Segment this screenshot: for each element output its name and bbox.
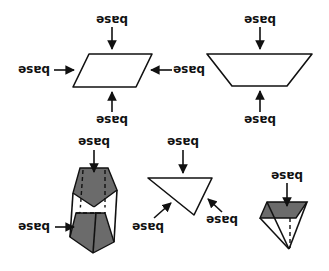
- pyramid-base: [260, 202, 307, 218]
- triangle-label-top: base: [167, 135, 199, 149]
- arrow-icon: [154, 203, 171, 218]
- trapezoid: [207, 54, 312, 86]
- parallelogram-label-right: base: [173, 63, 205, 77]
- arrow-icon: [208, 199, 222, 212]
- prism-top-base: [73, 168, 117, 207]
- triangle-label-right: base: [206, 213, 238, 227]
- parallelogram-label-bottom: base: [96, 113, 128, 127]
- parallelogram: [73, 54, 152, 87]
- parallelogram-label-top: base: [96, 13, 128, 27]
- parallelogram-group: base base base base: [18, 13, 205, 127]
- trapezoid-label-bottom: base: [244, 113, 276, 127]
- trapezoid-group: base base: [207, 13, 312, 127]
- trapezoid-label-top: base: [244, 13, 276, 27]
- triangle: [148, 178, 212, 215]
- prism-edge: [114, 190, 117, 242]
- pyramid-edge: [260, 218, 289, 249]
- prism-bottom-base: [70, 213, 114, 253]
- pyramid-group: base: [260, 169, 307, 249]
- triangle-group: base base base: [132, 135, 238, 234]
- parallelogram-label-left: base: [18, 63, 50, 77]
- pyramid-label-top: base: [271, 169, 303, 183]
- prism-label-left: base: [18, 220, 50, 234]
- triangle-label-left: base: [132, 220, 164, 234]
- prism-label-top: base: [78, 135, 110, 149]
- shape-bases-diagram: base base base base base base base base …: [0, 0, 329, 271]
- pentagonal-prism-group: base base: [18, 135, 117, 253]
